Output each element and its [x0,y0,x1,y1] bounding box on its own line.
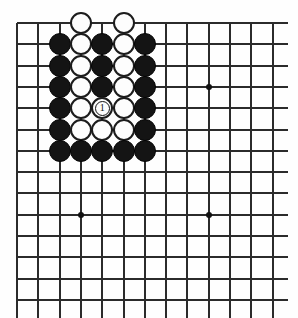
grid-line-vertical [250,23,252,318]
grid-line-horizontal [17,278,288,280]
grid-line-vertical [37,23,39,318]
stone-white[interactable] [70,119,92,141]
stone-black[interactable] [91,76,113,98]
go-board[interactable]: 1 [0,0,298,318]
grid-line-horizontal [17,214,288,216]
stone-white[interactable] [113,97,135,119]
stone-black[interactable] [113,140,135,162]
stone-black[interactable] [91,140,113,162]
grid-line-horizontal [17,22,288,24]
stone-black[interactable] [134,97,156,119]
stone-black[interactable] [49,33,71,55]
stone-black[interactable] [134,140,156,162]
stone-white-move-1[interactable]: 1 [91,97,113,119]
stone-black[interactable] [49,55,71,77]
stone-black[interactable] [70,140,92,162]
stone-white[interactable] [70,97,92,119]
stone-white[interactable] [113,119,135,141]
stone-black[interactable] [49,140,71,162]
grid-line-vertical [229,23,231,318]
grid-line-vertical [165,23,167,318]
grid-line-horizontal [17,171,288,173]
stone-black[interactable] [134,33,156,55]
stone-white[interactable] [70,12,92,34]
stone-black[interactable] [134,119,156,141]
stone-black[interactable] [49,119,71,141]
grid-line-horizontal [17,235,288,237]
move-number: 1 [93,99,111,117]
stone-white[interactable] [113,55,135,77]
stone-white[interactable] [91,119,113,141]
stone-white[interactable] [113,33,135,55]
grid-line-horizontal [17,192,288,194]
stone-black[interactable] [134,55,156,77]
star-point-lower-right [206,212,212,218]
grid-line-vertical [208,23,210,318]
stone-white[interactable] [70,33,92,55]
stone-black[interactable] [49,76,71,98]
stone-black[interactable] [91,55,113,77]
go-diagram: 1 [0,0,298,318]
grid-line-horizontal [17,299,288,301]
stone-white[interactable] [113,76,135,98]
grid-line-vertical [16,23,18,318]
stone-black[interactable] [134,76,156,98]
stone-white[interactable] [113,12,135,34]
star-point-lower-left [78,212,84,218]
stone-white[interactable] [70,55,92,77]
grid-line-vertical [272,23,274,318]
stone-black[interactable] [49,97,71,119]
stone-black[interactable] [91,33,113,55]
star-point-upper-right [206,84,212,90]
grid-line-horizontal [17,256,288,258]
stone-white[interactable] [70,76,92,98]
grid-line-vertical [186,23,188,318]
